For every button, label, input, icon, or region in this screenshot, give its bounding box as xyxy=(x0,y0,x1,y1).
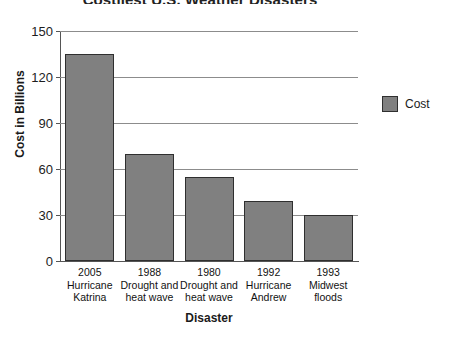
y-axis-tick xyxy=(56,123,60,124)
y-axis-tick-label: 0 xyxy=(46,254,53,269)
y-axis-tick xyxy=(56,77,60,78)
x-axis-label-line: heat wave xyxy=(179,291,239,304)
x-axis-category-label: 2005HurricaneKatrina xyxy=(60,266,120,304)
x-axis-label-line: 2005 xyxy=(60,266,120,279)
bar xyxy=(65,54,114,261)
x-axis-label-line: floods xyxy=(298,291,358,304)
bar xyxy=(125,154,174,261)
x-axis-category-label: 1988Drought andheat wave xyxy=(120,266,180,304)
x-axis-label-line: 1993 xyxy=(298,266,358,279)
gridline xyxy=(60,31,358,32)
bar xyxy=(304,215,353,261)
bar-chart: Costliest U.S. Weather Disasters Cost in… xyxy=(0,0,467,340)
y-axis-tick xyxy=(56,215,60,216)
x-axis-label-line: Andrew xyxy=(239,291,299,304)
x-axis-label-line: Drought and xyxy=(120,279,180,292)
legend: Cost xyxy=(382,96,430,112)
x-axis-label-line: 1992 xyxy=(239,266,299,279)
y-axis-tick xyxy=(56,261,60,262)
x-axis-category-label: 1992HurricaneAndrew xyxy=(239,266,299,304)
plot-area: 0306090120150 xyxy=(60,31,358,261)
y-axis-title: Cost in Billions xyxy=(13,49,27,179)
y-axis-tick xyxy=(56,31,60,32)
x-axis-label-line: Hurricane xyxy=(239,279,299,292)
y-axis-tick-label: 90 xyxy=(39,116,53,131)
y-axis-tick-label: 120 xyxy=(31,70,53,85)
x-axis-label-line: Drought and xyxy=(179,279,239,292)
y-axis-tick xyxy=(56,169,60,170)
legend-swatch-cost xyxy=(382,96,398,112)
x-axis-title: Disaster xyxy=(60,311,358,325)
x-axis-category-label: 1980Drought andheat wave xyxy=(179,266,239,304)
y-axis-tick-label: 150 xyxy=(31,24,53,39)
x-axis-label-line: Hurricane xyxy=(60,279,120,292)
x-axis-line xyxy=(60,261,359,262)
x-axis-label-line: 1988 xyxy=(120,266,180,279)
bar xyxy=(185,177,234,261)
x-axis-label-line: heat wave xyxy=(120,291,180,304)
y-axis-tick-label: 60 xyxy=(39,162,53,177)
x-axis-label-line: 1980 xyxy=(179,266,239,279)
bar xyxy=(244,201,293,261)
chart-title: Costliest U.S. Weather Disasters xyxy=(30,0,370,4)
x-axis-label-line: Midwest xyxy=(298,279,358,292)
y-axis-tick-label: 30 xyxy=(39,208,53,223)
x-axis-category-label: 1993Midwestfloods xyxy=(298,266,358,304)
x-axis-label-line: Katrina xyxy=(60,291,120,304)
legend-label-cost: Cost xyxy=(405,97,430,111)
